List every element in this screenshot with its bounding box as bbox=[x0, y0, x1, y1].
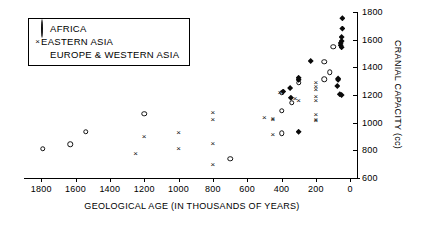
y-tick bbox=[353, 12, 358, 13]
x-tick-label: 800 bbox=[205, 184, 221, 194]
data-point-eastern-asia: × bbox=[295, 96, 302, 103]
legend-item-label: EUROPE & WESTERN ASIA bbox=[50, 49, 179, 60]
legend: AFRICA × EASTERN ASIA EUROPE & WESTERN A… bbox=[28, 18, 190, 66]
data-point-eastern-asia: × bbox=[209, 115, 216, 122]
data-point-africa bbox=[40, 146, 46, 152]
x-axis-title: GEOLOGICAL AGE (IN THOUSANDS OF YEARS) bbox=[24, 201, 360, 211]
x-tick-label: 400 bbox=[274, 184, 290, 194]
data-point-eastern-asia: × bbox=[209, 161, 216, 168]
y-tick-label: 800 bbox=[362, 145, 378, 155]
x-tick bbox=[41, 178, 42, 182]
y-tick bbox=[353, 123, 358, 124]
x-axis-line bbox=[24, 178, 360, 179]
y-tick-label: 1200 bbox=[362, 90, 383, 100]
y-tick bbox=[353, 67, 358, 68]
legend-item-africa: AFRICA bbox=[34, 22, 179, 35]
x-tick-label: 0 bbox=[347, 184, 352, 194]
x-tick-label: 600 bbox=[239, 184, 255, 194]
legend-item-eastern-asia: × EASTERN ASIA bbox=[34, 35, 179, 48]
data-point-eastern-asia: × bbox=[175, 144, 182, 151]
x-tick bbox=[350, 178, 351, 182]
data-point-eastern-asia: × bbox=[269, 116, 276, 123]
x-tick bbox=[144, 178, 145, 182]
x-tick bbox=[247, 178, 248, 182]
cranial-capacity-scatter-chart: 180016001400120010008006004002000 600800… bbox=[0, 0, 448, 227]
data-point-eastern-asia: × bbox=[312, 116, 319, 123]
x-tick bbox=[213, 178, 214, 182]
data-point-africa bbox=[227, 156, 233, 162]
data-point-africa bbox=[141, 111, 147, 117]
data-point-eastern-asia: × bbox=[175, 128, 182, 135]
y-tick bbox=[353, 150, 358, 151]
legend-item-label: AFRICA bbox=[50, 23, 87, 34]
data-point-africa bbox=[279, 130, 285, 136]
data-point-africa bbox=[83, 129, 89, 135]
cross-icon: × bbox=[34, 38, 41, 45]
data-point-eastern-asia: × bbox=[141, 132, 148, 139]
data-point-africa bbox=[327, 69, 333, 75]
y-tick-label: 1600 bbox=[362, 35, 383, 45]
x-tick-label: 1000 bbox=[168, 184, 189, 194]
x-tick-label: 1400 bbox=[99, 184, 120, 194]
y-tick-label: 600 bbox=[362, 173, 378, 183]
x-tick bbox=[282, 178, 283, 182]
y-axis-title: CRANIAL CAPACITY (cc) bbox=[393, 14, 403, 176]
x-tick-label: 200 bbox=[308, 184, 324, 194]
y-tick bbox=[353, 178, 358, 179]
data-point-africa bbox=[279, 108, 285, 114]
y-tick-label: 1400 bbox=[362, 62, 383, 72]
x-tick-label: 1600 bbox=[65, 184, 86, 194]
y-tick-label: 1000 bbox=[362, 118, 383, 128]
y-tick bbox=[353, 40, 358, 41]
data-point-eastern-asia: × bbox=[209, 140, 216, 147]
y-tick bbox=[353, 95, 358, 96]
data-point-eastern-asia: × bbox=[269, 130, 276, 137]
data-point-eastern-asia: × bbox=[312, 96, 319, 103]
x-tick-label: 1200 bbox=[134, 184, 155, 194]
data-point-africa bbox=[330, 44, 336, 50]
data-point-eastern-asia: × bbox=[132, 150, 139, 157]
y-tick-label: 1800 bbox=[362, 7, 383, 17]
data-point-africa bbox=[322, 59, 328, 65]
data-point-africa bbox=[322, 76, 328, 82]
x-tick-label: 1800 bbox=[31, 184, 52, 194]
data-point-eastern-asia: × bbox=[261, 114, 268, 121]
open-circle-icon bbox=[34, 20, 50, 38]
legend-item-europe-western-asia: EUROPE & WESTERN ASIA bbox=[34, 48, 179, 61]
data-point-africa bbox=[68, 141, 74, 147]
x-tick bbox=[76, 178, 77, 182]
x-tick bbox=[110, 178, 111, 182]
legend-item-label: EASTERN ASIA bbox=[41, 36, 113, 47]
x-tick bbox=[316, 178, 317, 182]
x-tick bbox=[179, 178, 180, 182]
